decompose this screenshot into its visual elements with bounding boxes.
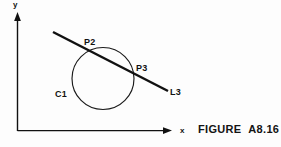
y-axis	[14, 12, 21, 131]
point-label-p2: P2	[84, 37, 95, 47]
figure-a8-16: y x P2 P3 C1 L3 FIGUREA8.16	[0, 0, 281, 147]
figure-caption-prefix: FIGURE	[198, 123, 241, 135]
line-l3	[53, 32, 168, 91]
x-axis-label: x	[180, 126, 185, 136]
point-label-p3: P3	[136, 63, 147, 73]
line-label-l3: L3	[170, 87, 181, 97]
y-axis-label: y	[13, 0, 18, 10]
figure-caption-number: A8.16	[248, 123, 279, 135]
figure-caption: FIGUREA8.16	[198, 123, 279, 135]
x-axis	[18, 127, 173, 134]
circle-label-c1: C1	[55, 89, 67, 99]
y-axis-arrowhead-icon	[14, 12, 21, 21]
x-axis-arrowhead-icon	[163, 127, 172, 134]
